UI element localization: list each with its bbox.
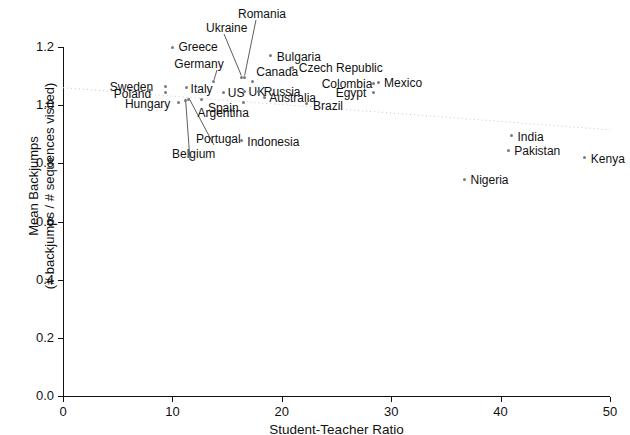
data-point-label: Belgium <box>172 148 215 160</box>
x-axis-line <box>63 396 610 397</box>
y-axis-title-line1: Mean Backjumps <box>26 56 42 316</box>
data-point <box>377 81 380 84</box>
data-point <box>243 90 246 93</box>
data-point-label: Kenya <box>591 153 625 165</box>
data-point-label: Canada <box>256 66 298 78</box>
data-point <box>200 98 203 101</box>
data-point-label: Czech Republic <box>299 62 383 74</box>
data-point <box>222 91 225 94</box>
x-tick-label: 30 <box>371 404 411 419</box>
y-tick-label: 1.2 <box>14 39 54 54</box>
x-tick <box>391 397 392 402</box>
data-point-label: Australia <box>269 92 316 104</box>
y-tick <box>58 105 63 106</box>
data-point <box>243 76 246 79</box>
data-point <box>171 46 174 49</box>
data-point <box>187 98 190 101</box>
data-point <box>583 156 586 159</box>
data-point-label: India <box>518 131 544 143</box>
y-tick <box>58 47 63 48</box>
data-point <box>251 80 254 83</box>
data-point <box>463 178 466 181</box>
x-tick-label: 20 <box>262 404 302 419</box>
x-tick <box>282 397 283 402</box>
data-point <box>240 139 243 142</box>
data-point-label: Italy <box>191 83 213 95</box>
data-point <box>212 80 215 83</box>
x-tick <box>501 397 502 402</box>
y-tick <box>58 163 63 164</box>
x-tick-label: 10 <box>152 404 192 419</box>
data-point-label: Germany <box>174 58 223 70</box>
y-axis-line <box>63 47 64 396</box>
data-point-label: Ukraine <box>206 22 247 34</box>
data-point-label: Indonesia <box>247 136 299 148</box>
data-point <box>510 134 513 137</box>
data-point <box>164 85 167 88</box>
data-point-label: Greece <box>178 41 217 53</box>
x-tick <box>610 397 611 402</box>
y-tick <box>58 338 63 339</box>
data-point <box>372 82 375 85</box>
data-point-label: Mexico <box>384 77 422 89</box>
x-axis-title: Student-Teacher Ratio <box>257 422 417 435</box>
data-point <box>242 101 245 104</box>
data-point <box>184 99 187 102</box>
data-point-label: US <box>228 87 245 99</box>
data-point-label: Argentina <box>198 107 249 119</box>
x-tick-label: 40 <box>481 404 521 419</box>
data-point-label: Egypt <box>336 87 367 99</box>
y-axis-title-line2: (# backjumps / # sequences visited) <box>42 56 58 316</box>
data-point-label: Brazil <box>313 100 343 112</box>
data-point <box>177 101 180 104</box>
x-tick <box>63 397 64 402</box>
x-tick-label: 0 <box>43 404 83 419</box>
x-tick <box>172 397 173 402</box>
data-point <box>507 149 510 152</box>
y-tick <box>58 396 63 397</box>
data-point-label: Pakistan <box>514 145 560 157</box>
y-tick <box>58 280 63 281</box>
x-tick-label: 50 <box>590 404 630 419</box>
data-point-label: Romania <box>238 8 286 20</box>
leader-line <box>214 70 217 80</box>
data-point <box>269 54 272 57</box>
data-point <box>164 91 167 94</box>
data-point <box>372 91 375 94</box>
y-tick-label: 0.2 <box>14 330 54 345</box>
y-tick-label: 0.0 <box>14 388 54 403</box>
leader-line <box>224 34 241 76</box>
data-point-label: Hungary <box>125 98 170 110</box>
data-point <box>263 96 266 99</box>
data-point <box>185 86 188 89</box>
data-point-label: Portugal <box>196 133 241 145</box>
y-axis-title: Mean Backjumps (# backjumps / # sequence… <box>26 56 58 316</box>
data-point-label: Nigeria <box>470 174 508 186</box>
y-tick <box>58 222 63 223</box>
